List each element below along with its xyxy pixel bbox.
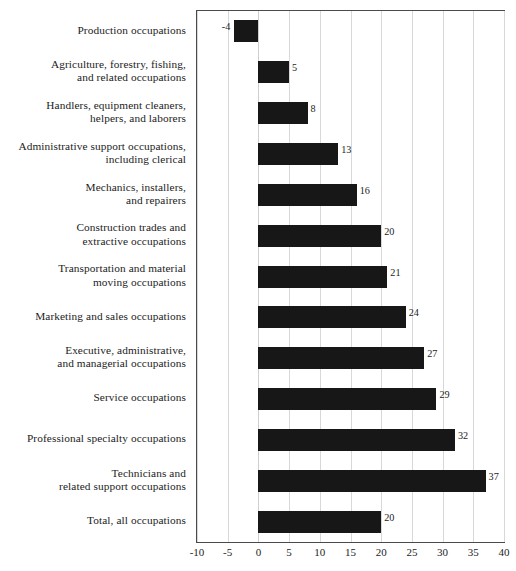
bar-value-label: 20 — [384, 512, 394, 523]
bar — [258, 429, 454, 451]
category-label: Transportation and material moving occup… — [0, 262, 186, 288]
bar-value-label: 32 — [458, 430, 468, 441]
bar — [258, 511, 381, 533]
category-label: Production occupations — [0, 24, 186, 37]
bar — [258, 184, 356, 206]
category-label-column: Production occupationsAgriculture, fores… — [0, 10, 186, 543]
category-label: Handlers, equipment cleaners, helpers, a… — [0, 99, 186, 125]
gridline-30 — [443, 11, 444, 542]
category-label: Service occupations — [0, 391, 186, 404]
category-label: Marketing and sales occupations — [0, 310, 186, 323]
bar-value-label: 16 — [360, 185, 370, 196]
bar — [258, 143, 338, 165]
bar-value-label: 13 — [341, 144, 351, 155]
gridline-35 — [473, 11, 474, 542]
x-tick-label: -5 — [223, 546, 232, 559]
gridline-25 — [412, 11, 413, 542]
bar-value-label: 24 — [409, 307, 419, 318]
category-label: Agriculture, forestry, fishing, and rela… — [0, 58, 186, 84]
x-tick-label: 10 — [314, 546, 325, 559]
category-label: Construction trades and extractive occup… — [0, 221, 186, 247]
bar-value-label: 37 — [489, 471, 499, 482]
bar-chart: Production occupationsAgriculture, fores… — [0, 0, 516, 571]
bar-value-label: 27 — [427, 348, 437, 359]
category-label: Mechanics, installers, and repairers — [0, 181, 186, 207]
bar-value-label: 8 — [311, 103, 316, 114]
bar-value-label: 5 — [292, 62, 297, 73]
gridline--5 — [228, 11, 229, 542]
category-label: Administrative support occupations, incl… — [0, 140, 186, 166]
x-tick-label: 30 — [437, 546, 448, 559]
x-tick-label: 35 — [468, 546, 479, 559]
category-label: Total, all occupations — [0, 514, 186, 527]
bar — [258, 225, 381, 247]
bar — [258, 266, 387, 288]
x-tick-label: 15 — [345, 546, 356, 559]
gridline--10 — [197, 11, 198, 542]
bar — [258, 347, 424, 369]
bar-value-label: 29 — [439, 389, 449, 400]
x-tick-label: 20 — [376, 546, 387, 559]
plot-area: -45813162021242729323720 — [196, 10, 505, 543]
x-axis: -10-50510152025303540 — [196, 543, 505, 565]
category-label: Technicians and related support occupati… — [0, 467, 186, 493]
bar — [258, 470, 485, 492]
bar-value-label: 20 — [384, 226, 394, 237]
bar — [258, 102, 307, 124]
x-tick-label: 25 — [406, 546, 417, 559]
category-label: Professional specialty occupations — [0, 432, 186, 445]
bar — [234, 20, 259, 42]
bar-value-label: -4 — [222, 21, 231, 32]
x-tick-label: 40 — [499, 546, 510, 559]
bar-value-label: 21 — [390, 267, 400, 278]
category-label: Executive, administrative, and manageria… — [0, 344, 186, 370]
bar — [258, 388, 436, 410]
x-tick-label: 5 — [286, 546, 292, 559]
x-tick-label: -10 — [190, 546, 205, 559]
bar — [258, 61, 289, 83]
gridline-40 — [504, 11, 505, 542]
x-tick-label: 0 — [256, 546, 262, 559]
bar — [258, 306, 405, 328]
